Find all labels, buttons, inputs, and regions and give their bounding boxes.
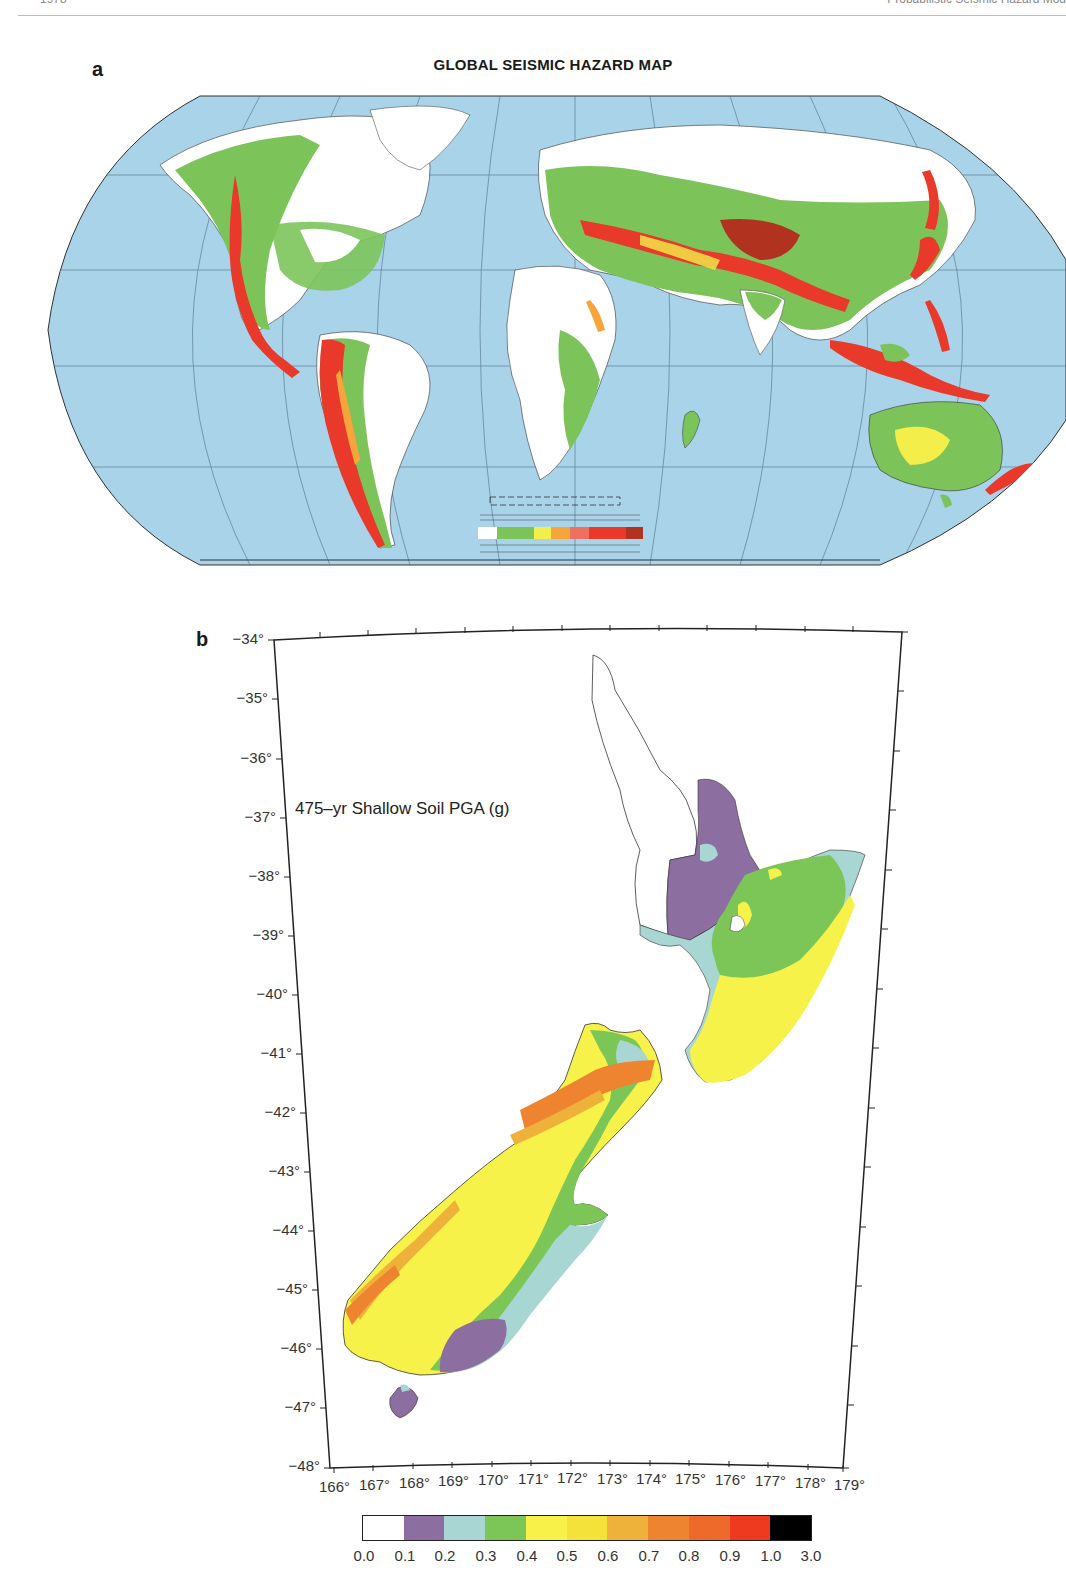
figure-canvas — [0, 0, 1066, 1571]
colorbar-swatch — [730, 1516, 771, 1540]
y-tick-label: −48° — [260, 1457, 320, 1474]
y-tick-label: −41° — [232, 1044, 292, 1061]
colorbar-swatch — [689, 1516, 730, 1540]
nz-map-title: 475–yr Shallow Soil PGA (g) — [295, 799, 510, 819]
x-tick-label: 171° — [518, 1470, 549, 1487]
colorbar-label: 0.9 — [720, 1547, 741, 1564]
colorbar-label: 0.1 — [395, 1547, 416, 1564]
colorbar-label: 0.2 — [435, 1547, 456, 1564]
pga-colorbar — [362, 1515, 812, 1541]
y-tick-label: −46° — [252, 1339, 312, 1356]
colorbar-label: 0.4 — [517, 1547, 538, 1564]
colorbar-swatch — [404, 1516, 445, 1540]
x-tick-label: 166° — [319, 1478, 350, 1495]
colorbar-label: 0.0 — [354, 1547, 375, 1564]
y-tick-label: −35° — [208, 689, 268, 706]
y-tick-label: −38° — [220, 867, 280, 884]
colorbar-label: 0.8 — [679, 1547, 700, 1564]
y-tick-label: −47° — [256, 1398, 316, 1415]
colorbar-label: 0.6 — [598, 1547, 619, 1564]
colorbar-label: 1.0 — [761, 1547, 782, 1564]
colorbar-swatch — [607, 1516, 648, 1540]
y-tick-label: −45° — [248, 1280, 308, 1297]
colorbar-label: 0.5 — [557, 1547, 578, 1564]
colorbar-swatch — [648, 1516, 689, 1540]
global-hazard-map — [40, 96, 1066, 565]
colorbar-label: 3.0 — [801, 1547, 822, 1564]
y-tick-label: −40° — [228, 985, 288, 1002]
x-tick-label: 172° — [557, 1469, 588, 1486]
x-tick-label: 175° — [675, 1470, 706, 1487]
x-tick-label: 176° — [715, 1471, 746, 1488]
y-tick-label: −43° — [240, 1162, 300, 1179]
y-tick-label: −39° — [224, 926, 284, 943]
x-tick-label: 179° — [834, 1476, 865, 1493]
colorbar-label: 0.7 — [639, 1547, 660, 1564]
x-tick-label: 177° — [755, 1472, 786, 1489]
colorbar-swatch — [363, 1516, 404, 1540]
x-tick-label: 168° — [399, 1474, 430, 1491]
nz-hazard-map — [268, 625, 908, 1473]
x-tick-label: 167° — [359, 1476, 390, 1493]
y-tick-label: −37° — [216, 808, 276, 825]
y-tick-label: −34° — [204, 630, 264, 647]
x-tick-label: 174° — [636, 1470, 667, 1487]
colorbar-swatch — [567, 1516, 608, 1540]
colorbar-label: 0.3 — [476, 1547, 497, 1564]
y-tick-label: −44° — [244, 1221, 304, 1238]
colorbar-swatch — [485, 1516, 526, 1540]
x-tick-label: 169° — [438, 1472, 469, 1489]
colorbar-swatch — [526, 1516, 567, 1540]
x-tick-label: 178° — [795, 1474, 826, 1491]
colorbar-swatch — [444, 1516, 485, 1540]
x-tick-label: 173° — [597, 1470, 628, 1487]
x-tick-label: 170° — [478, 1471, 509, 1488]
colorbar-swatch — [770, 1516, 811, 1540]
y-tick-label: −36° — [212, 749, 272, 766]
y-tick-label: −42° — [236, 1103, 296, 1120]
